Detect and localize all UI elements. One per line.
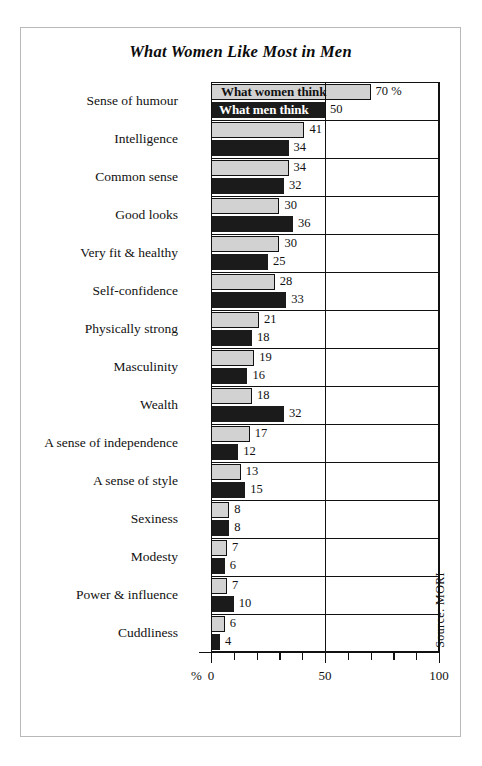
tick-100: [439, 652, 440, 663]
category-label: Self-confidence: [0, 283, 178, 299]
category-label: Intelligence: [0, 131, 178, 147]
bar-value-women: 18: [257, 387, 270, 403]
bar-row: 2833: [191, 272, 420, 310]
bar-row: 1315: [191, 462, 420, 500]
gridline-100: [439, 82, 440, 652]
bar-value-women: 34: [294, 159, 307, 175]
x-axis: 050100 %: [191, 652, 439, 692]
x-axis-line: [199, 652, 439, 653]
category-label: Cuddliness: [0, 625, 178, 641]
bar-value-men: 18: [257, 329, 270, 345]
bar-value-men: 12: [243, 443, 256, 459]
bar-men: [211, 140, 289, 156]
category-label: A sense of style: [0, 473, 178, 489]
bar-value-women: 28: [280, 273, 293, 289]
category-label: Very fit & healthy: [0, 245, 178, 261]
bar-row: 1832: [191, 386, 420, 424]
bar-women: [211, 616, 225, 632]
tick-label-0: 0: [208, 668, 215, 684]
bar-value-men: 15: [250, 481, 263, 497]
bar-value-women: 17: [255, 425, 268, 441]
tick-20: [257, 652, 258, 660]
bar-men: [211, 178, 284, 194]
source-note: Source: MORI: [433, 572, 448, 648]
bar-women: [211, 160, 289, 176]
bar-women: [211, 578, 227, 594]
bar-value-women: 30: [284, 197, 297, 213]
bar-women: [211, 426, 250, 442]
bar-value-men: 16: [252, 367, 265, 383]
bar-men: [211, 444, 238, 460]
bar-value-men: 32: [289, 177, 302, 193]
page-title: What Women Like Most in Men: [21, 42, 460, 62]
tick-90: [416, 652, 417, 660]
bar-value-women: 41: [309, 121, 322, 137]
category-label: Sexiness: [0, 511, 178, 527]
tick-40: [302, 652, 303, 660]
bar-value-men: 6: [230, 557, 236, 573]
category-label: Common sense: [0, 169, 178, 185]
bar-value-men: 50: [330, 101, 343, 117]
plot-area: 70 %50What women thinkWhat men think4134…: [191, 82, 420, 652]
bar-row: 76: [191, 538, 420, 576]
bar-men: [211, 482, 245, 498]
bar-men: [211, 330, 252, 346]
bar-value-women: 8: [234, 501, 240, 517]
bar-men: [211, 292, 286, 308]
tick-70: [371, 652, 372, 660]
category-label: Masculinity: [0, 359, 178, 375]
bar-men: [211, 520, 229, 536]
bar-row: 70 %50What women thinkWhat men think: [191, 82, 420, 120]
category-label: Modesty: [0, 549, 178, 565]
tick-0: [211, 652, 212, 663]
category-label: A sense of independence: [0, 435, 178, 451]
bar-value-women: 13: [246, 463, 259, 479]
category-label: Wealth: [0, 397, 178, 413]
tick-label-100: 100: [429, 668, 449, 684]
bar-women: [211, 122, 304, 138]
bar-row: 2118: [191, 310, 420, 348]
legend-men-label: What men think: [219, 102, 309, 118]
bar-value-women: 7: [232, 539, 238, 555]
bar-value-men: 4: [225, 633, 231, 649]
bar-value-women: 19: [259, 349, 272, 365]
tick-label-50: 50: [319, 668, 332, 684]
bar-value-men: 33: [291, 291, 304, 307]
bar-women: [211, 540, 227, 556]
category-label: Good looks: [0, 207, 178, 223]
bar-value-men: 34: [294, 139, 307, 155]
bar-value-men: 10: [239, 595, 252, 611]
bar-value-women: 21: [264, 311, 277, 327]
tick-30: [279, 652, 280, 660]
tick-60: [348, 652, 349, 660]
bar-row: 1916: [191, 348, 420, 386]
legend-women-label: What women think: [221, 84, 326, 100]
gridline-0: [211, 82, 212, 652]
category-label: Physically strong: [0, 321, 178, 337]
bar-value-women: 30: [284, 235, 297, 251]
bar-value-men: 36: [298, 215, 311, 231]
bar-value-women: 70 %: [376, 83, 402, 99]
bar-row: 64: [191, 614, 420, 652]
bar-value-women: 7: [232, 577, 238, 593]
bar-value-men: 25: [273, 253, 286, 269]
bar-value-men: 8: [234, 519, 240, 535]
percent-symbol-label: %: [191, 668, 202, 684]
bar-value-men: 32: [289, 405, 302, 421]
bar-row: 3036: [191, 196, 420, 234]
bar-women: [211, 274, 275, 290]
bar-women: [211, 388, 252, 404]
bar-men: [211, 368, 247, 384]
bar-row: 3432: [191, 158, 420, 196]
bar-men: [211, 558, 225, 574]
tick-80: [393, 652, 394, 660]
bar-value-women: 6: [230, 615, 236, 631]
bar-row: 1712: [191, 424, 420, 462]
chart-frame: What Women Like Most in Men 70 %50What w…: [20, 27, 461, 737]
bar-men: [211, 254, 268, 270]
tick-50: [325, 652, 326, 663]
tick-10: [234, 652, 235, 660]
bar-women: [211, 350, 254, 366]
bar-men: [211, 216, 293, 232]
bar-women: [211, 198, 279, 214]
